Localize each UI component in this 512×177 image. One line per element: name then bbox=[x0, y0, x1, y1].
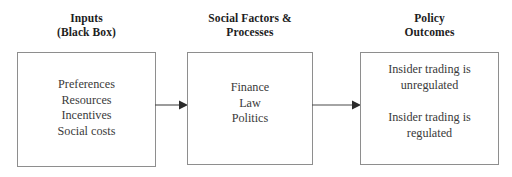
body-line: Politics bbox=[187, 111, 313, 127]
body-line: Social costs bbox=[17, 124, 156, 140]
column-heading-policy-outcomes: Policy Outcomes bbox=[360, 11, 499, 39]
body-line: Insider trading is bbox=[360, 110, 499, 126]
body-line: regulated bbox=[360, 126, 499, 142]
box-body-inputs: Preferences Resources Incentives Social … bbox=[17, 77, 156, 139]
body-line: Incentives bbox=[17, 108, 156, 124]
arrow-inputs-to-social bbox=[155, 99, 189, 111]
text-block-unregulated: Insider trading is unregulated bbox=[360, 62, 499, 93]
body-line: Finance bbox=[187, 80, 313, 96]
column-heading-inputs: Inputs (Black Box) bbox=[17, 11, 156, 39]
arrow-social-to-policy bbox=[312, 99, 362, 111]
flow-diagram: Inputs (Black Box) Preferences Resources… bbox=[0, 0, 512, 177]
body-line: Law bbox=[187, 96, 313, 112]
text-block: Preferences Resources Incentives Social … bbox=[17, 77, 156, 139]
body-line: unregulated bbox=[360, 78, 499, 94]
text-block-regulated: Insider trading is regulated bbox=[360, 110, 499, 141]
body-line: Preferences bbox=[17, 77, 156, 93]
text-block: Finance Law Politics bbox=[187, 80, 313, 127]
box-body-policy-outcomes: Insider trading is unregulated Insider t… bbox=[360, 62, 499, 141]
box-body-social-factors: Finance Law Politics bbox=[187, 80, 313, 127]
column-heading-social-factors: Social Factors & Processes bbox=[187, 11, 313, 39]
body-line: Resources bbox=[17, 93, 156, 109]
body-line: Insider trading is bbox=[360, 62, 499, 78]
